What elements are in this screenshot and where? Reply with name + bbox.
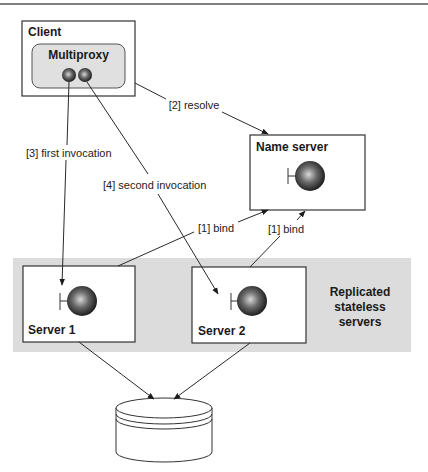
replicated-label-line2: stateless [334, 300, 386, 314]
multiproxy-diagram: Replicated stateless servers Client Mult… [0, 0, 428, 472]
edge-bind1-label: [1] bind [198, 222, 234, 234]
edge-resolve-label: [2] resolve [169, 99, 220, 111]
name-server-label: Name server [256, 140, 328, 154]
edge-resolve-arrow [222, 112, 268, 134]
server1-label: Server 1 [28, 323, 76, 337]
database-top [116, 398, 212, 418]
client-node: Client Multiproxy [22, 21, 135, 96]
edge-first-invocation-label: [3] first invocation [26, 147, 112, 159]
database-icon [116, 398, 212, 462]
multiproxy-label: Multiproxy [48, 48, 109, 62]
server1-node: Server 1 [23, 266, 135, 342]
server-object-icon [237, 286, 267, 316]
edge-bind2-label: [1] bind [268, 223, 304, 235]
replicated-label-line3: servers [339, 315, 382, 329]
edge-second-invocation-label: [4] second invocation [103, 179, 206, 191]
edge-bind1-arrow [238, 210, 268, 222]
proxy-object-icon [78, 68, 92, 82]
replicated-label-line1: Replicated [330, 285, 391, 299]
edge-resolve-segment [135, 83, 166, 99]
client-label: Client [28, 25, 61, 39]
server2-label: Server 2 [198, 324, 246, 338]
server-object-icon [67, 286, 97, 316]
edge-bind2-arrow [297, 211, 305, 220]
name-server-node: Name server [250, 135, 365, 210]
proxy-object-icon [62, 68, 76, 82]
server-object-icon [295, 161, 325, 191]
